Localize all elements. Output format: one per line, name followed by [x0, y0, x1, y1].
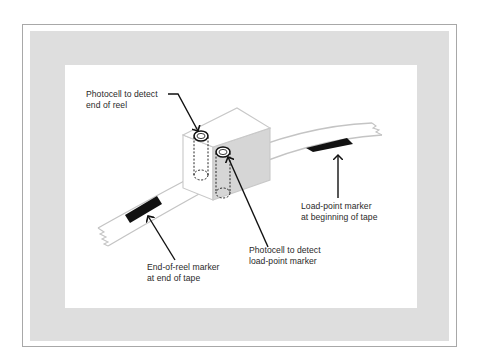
label-line: Photocell to detect [86, 89, 158, 100]
tape-diagram [0, 0, 477, 360]
label-line: at end of tape [147, 273, 220, 284]
label-photocell-load-point: Photocell to detect load-point marker [249, 245, 321, 267]
leader-end-of-reel-marker [148, 216, 175, 260]
leader-photocell-end-of-reel [168, 94, 198, 131]
label-photocell-end-of-reel: Photocell to detect end of reel [86, 89, 158, 111]
label-end-of-reel-marker: End-of-reel marker at end of tape [147, 262, 220, 284]
label-load-point-marker: Load-point marker at beginning of tape [301, 201, 378, 223]
label-line: at beginning of tape [301, 212, 378, 223]
label-line: load-point marker [249, 256, 321, 267]
label-line: end of reel [86, 100, 158, 111]
label-line: Photocell to detect [249, 245, 321, 256]
label-line: End-of-reel marker [147, 262, 220, 273]
label-line: Load-point marker [301, 201, 378, 212]
